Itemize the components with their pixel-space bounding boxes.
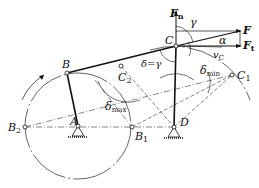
label-Ft: Ft — [242, 39, 255, 53]
label-C1: C1 — [237, 69, 251, 83]
label-gamma: γ — [190, 16, 197, 29]
force-F-line — [176, 31, 240, 46]
delta-arc — [160, 50, 176, 62]
joint-C2 — [119, 64, 123, 68]
rocker-swing-arc — [160, 74, 194, 80]
arrowhead-F — [236, 29, 242, 33]
label-C: C — [165, 34, 174, 47]
vc-arc — [188, 42, 191, 56]
joint-B2 — [23, 125, 27, 129]
label-delta-eq-gamma: δ=γ — [141, 58, 161, 69]
rocker-CD — [174, 46, 176, 127]
label-delta-min: δmin — [200, 64, 221, 78]
label-F: F — [242, 24, 252, 37]
label-B1: B1 — [134, 130, 148, 144]
joint-D — [172, 125, 176, 129]
label-alpha: α — [219, 34, 227, 47]
label-Fn: Fn — [169, 7, 184, 21]
label-C2: C2 — [118, 71, 132, 85]
label-B2: B2 — [7, 121, 21, 135]
joint-B — [65, 71, 69, 75]
joint-C1 — [230, 73, 234, 77]
arrowhead-Ft — [236, 44, 242, 48]
joint-B1 — [130, 125, 134, 129]
label-D: D — [179, 116, 189, 129]
rotation-arrow — [22, 75, 44, 100]
label-B: B — [61, 58, 70, 71]
label-vc: vC — [213, 49, 224, 62]
label-A: A — [69, 115, 78, 128]
joint-C — [174, 44, 178, 48]
linkage-diagram: B A B2 B1 D C C1 C2 Fn F Ft γ α vC δ=γ δ… — [0, 0, 259, 188]
